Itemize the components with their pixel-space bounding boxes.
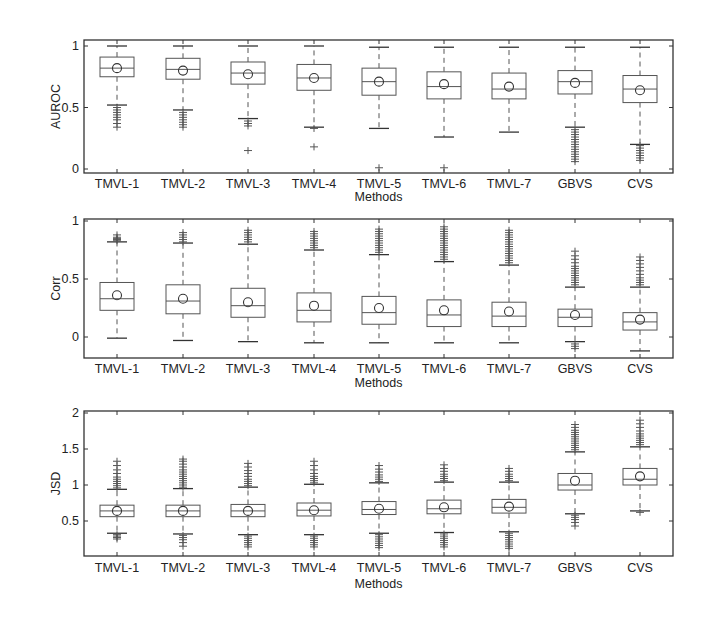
iqr-box — [623, 468, 657, 485]
box-cvs: CVS — [623, 219, 657, 376]
x-tick-label: TMVL-5 — [357, 362, 402, 376]
box-tmvl-5: TMVL-5 — [357, 219, 402, 376]
iqr-box — [100, 57, 134, 77]
box-plot-figure: 00.51AUROCMethodsTMVL-1TMVL-2TMVL-3TMVL-… — [0, 0, 713, 621]
iqr-box — [231, 288, 265, 317]
box-tmvl-2: TMVL-2 — [161, 411, 206, 575]
box-gbvs: GBVS — [558, 40, 593, 191]
x-axis-label: Methods — [355, 190, 403, 204]
x-tick-label: TMVL-7 — [487, 561, 532, 575]
y-tick-label: 0 — [72, 162, 79, 176]
box-gbvs: GBVS — [558, 219, 593, 376]
x-tick-label: TMVL-7 — [487, 177, 532, 191]
iqr-box — [492, 302, 526, 326]
x-tick-label: TMVL-6 — [422, 561, 467, 575]
x-tick-label: CVS — [627, 362, 653, 376]
iqr-box — [492, 73, 526, 99]
x-tick-label: TMVL-3 — [226, 561, 271, 575]
box-tmvl-7: TMVL-7 — [487, 411, 532, 575]
y-axis-label: Corr — [49, 276, 63, 300]
chart-canvas: 00.51AUROCMethodsTMVL-1TMVL-2TMVL-3TMVL-… — [0, 0, 713, 621]
iqr-box — [166, 285, 200, 314]
x-tick-label: CVS — [627, 177, 653, 191]
iqr-box — [558, 309, 592, 326]
x-axis-label: Methods — [355, 577, 403, 591]
x-tick-label: TMVL-1 — [95, 362, 140, 376]
iqr-box — [427, 72, 461, 99]
x-tick-label: TMVL-7 — [487, 362, 532, 376]
iqr-box — [558, 71, 592, 94]
iqr-box — [362, 296, 396, 324]
box-cvs: CVS — [623, 40, 657, 191]
x-axis-label: Methods — [355, 376, 403, 390]
box-tmvl-2: TMVL-2 — [161, 219, 206, 376]
box-tmvl-6: TMVL-6 — [422, 219, 467, 376]
x-tick-label: TMVL-1 — [95, 177, 140, 191]
box-tmvl-7: TMVL-7 — [487, 219, 532, 376]
x-tick-label: TMVL-1 — [95, 561, 140, 575]
x-tick-label: TMVL-3 — [226, 362, 271, 376]
y-tick-label: 0.5 — [62, 514, 79, 528]
box-tmvl-4: TMVL-4 — [292, 40, 337, 191]
x-tick-label: GBVS — [558, 561, 593, 575]
x-tick-label: TMVL-2 — [161, 177, 206, 191]
x-tick-label: TMVL-2 — [161, 561, 206, 575]
auroc-panel: 00.51AUROCMethodsTMVL-1TMVL-2TMVL-3TMVL-… — [49, 39, 673, 204]
box-tmvl-7: TMVL-7 — [487, 40, 532, 191]
box-tmvl-6: TMVL-6 — [422, 40, 467, 191]
x-tick-label: TMVL-6 — [422, 362, 467, 376]
box-tmvl-4: TMVL-4 — [292, 411, 337, 575]
box-cvs: CVS — [623, 411, 657, 575]
box-tmvl-5: TMVL-5 — [357, 40, 402, 191]
y-tick-label: 1 — [72, 39, 79, 53]
iqr-box — [297, 293, 331, 322]
y-tick-label: 1 — [72, 214, 79, 228]
box-tmvl-4: TMVL-4 — [292, 219, 337, 376]
x-tick-label: TMVL-4 — [292, 177, 337, 191]
x-tick-label: TMVL-2 — [161, 362, 206, 376]
box-tmvl-3: TMVL-3 — [226, 411, 271, 575]
y-axis-label: AUROC — [49, 84, 63, 129]
box-tmvl-1: TMVL-1 — [95, 219, 140, 376]
box-tmvl-3: TMVL-3 — [226, 40, 271, 191]
x-tick-label: TMVL-6 — [422, 177, 467, 191]
y-tick-label: 0 — [72, 330, 79, 344]
x-tick-label: TMVL-3 — [226, 177, 271, 191]
x-tick-label: TMVL-5 — [357, 561, 402, 575]
jsd-panel: 0.511.52JSDMethodsTMVL-1TMVL-2TMVL-3TMVL… — [49, 406, 673, 591]
x-tick-label: TMVL-4 — [292, 362, 337, 376]
x-tick-label: GBVS — [558, 177, 593, 191]
y-axis-label: JSD — [49, 472, 63, 496]
x-tick-label: CVS — [627, 561, 653, 575]
box-tmvl-5: TMVL-5 — [357, 411, 402, 575]
box-tmvl-6: TMVL-6 — [422, 411, 467, 575]
y-tick-label: 0.5 — [62, 272, 79, 286]
box-tmvl-3: TMVL-3 — [226, 219, 271, 376]
box-tmvl-1: TMVL-1 — [95, 40, 140, 191]
iqr-box — [427, 300, 461, 327]
x-tick-label: TMVL-5 — [357, 177, 402, 191]
corr-panel: 00.51CorrMethodsTMVL-1TMVL-2TMVL-3TMVL-4… — [49, 214, 673, 390]
x-tick-label: TMVL-4 — [292, 561, 337, 575]
iqr-box — [362, 502, 396, 515]
iqr-box — [166, 58, 200, 79]
iqr-box — [297, 503, 331, 516]
x-tick-label: GBVS — [558, 362, 593, 376]
y-tick-label: 1 — [72, 478, 79, 492]
box-tmvl-2: TMVL-2 — [161, 40, 206, 191]
iqr-box — [100, 282, 134, 310]
y-tick-label: 0.5 — [62, 101, 79, 115]
box-gbvs: GBVS — [558, 411, 593, 575]
y-tick-label: 2 — [72, 406, 79, 420]
y-tick-label: 1.5 — [62, 442, 79, 456]
iqr-box — [297, 64, 331, 90]
box-tmvl-1: TMVL-1 — [95, 411, 140, 575]
